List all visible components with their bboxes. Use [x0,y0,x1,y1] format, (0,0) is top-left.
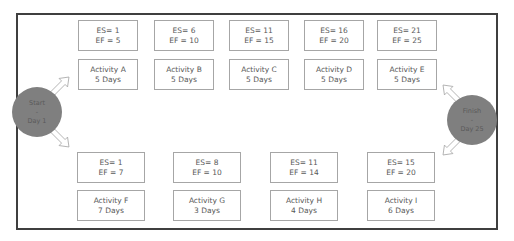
start-label: Start [29,99,45,108]
finish-separator: - [471,116,473,125]
finish-day: Day 25 [460,125,483,134]
start-day: Day 1 [27,117,46,126]
finish-node: Finish - Day 25 [447,95,497,145]
start-node: Start - Day 1 [12,87,62,137]
flow-arrows [0,0,514,241]
finish-label: Finish [463,107,482,116]
start-separator: - [36,108,38,117]
